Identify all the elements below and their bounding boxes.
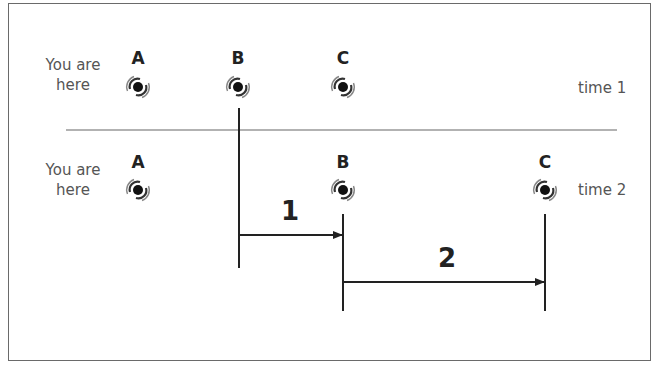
label-c-time1: C [333,48,353,68]
galaxy-a-time1-icon [127,77,150,98]
time-2-label: time 2 [578,180,626,200]
you-are-here-line1: You are [33,160,113,180]
distance-label-1: 1 [275,196,305,226]
time-1-label: time 1 [578,78,626,98]
distance-label-2: 2 [432,243,462,273]
galaxy-b-time1-icon [227,77,250,98]
label-b-time2: B [333,152,353,172]
galaxy-c-time2-icon [534,180,557,201]
label-b-time1: B [228,48,248,68]
label-a-time1: A [128,48,148,68]
you-are-here-time1: You are here [33,55,113,95]
galaxy-b-time2-icon [332,180,355,201]
galaxy-a-time2-icon [127,180,150,201]
label-a-time2: A [128,152,148,172]
galaxy-c-time1-icon [332,77,355,98]
you-are-here-line2: here [33,180,113,200]
you-are-here-line2: here [33,75,113,95]
label-c-time2: C [535,152,555,172]
you-are-here-line1: You are [33,55,113,75]
you-are-here-time2: You are here [33,160,113,200]
